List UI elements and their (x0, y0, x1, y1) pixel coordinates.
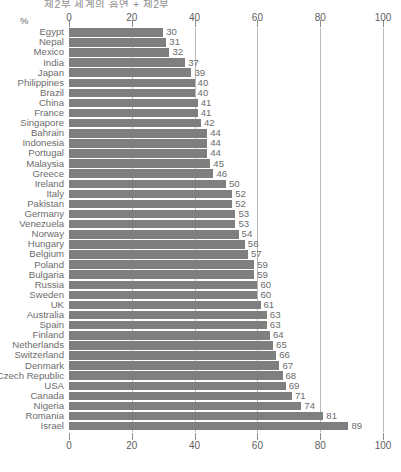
bar (69, 200, 232, 209)
bar (69, 48, 169, 57)
bar-row: Czech Republic68 (69, 371, 383, 380)
tick-label: 20 (126, 440, 137, 451)
bar (69, 371, 283, 380)
axis-tick-bottom (383, 433, 384, 440)
bar (69, 28, 163, 37)
bar-value-label: 32 (169, 48, 183, 58)
bar (69, 220, 235, 229)
bar (69, 129, 207, 138)
bar-row: Finland64 (69, 331, 383, 340)
bar (69, 210, 235, 219)
bar (69, 149, 207, 158)
bar (69, 79, 195, 88)
bar (69, 341, 273, 350)
bar (69, 38, 166, 47)
bar-chart: 제2부 세계의 흡연 + 제2부 % Egypt30Nepal31Mexico3… (0, 0, 401, 472)
bar-row: Bulgaria59 (69, 270, 383, 279)
bar-row: Australia63 (69, 311, 383, 320)
bar (69, 361, 279, 370)
axis-tick-bottom (69, 433, 70, 440)
bar-value-label: 74 (301, 401, 315, 411)
top-caption: 제2부 세계의 흡연 + 제2부 (44, 0, 170, 8)
bar-row: Belgium57 (69, 250, 383, 259)
bar (69, 422, 348, 431)
gridline (383, 28, 384, 432)
bar (69, 270, 254, 279)
bar (69, 169, 213, 178)
unit-label: % (20, 15, 28, 26)
bar-row: Egypt30 (69, 28, 383, 37)
bar (69, 250, 248, 259)
bar (69, 260, 254, 269)
bar-row: USA69 (69, 382, 383, 391)
bar-row: Norway54 (69, 230, 383, 239)
bar (69, 180, 226, 189)
tick-label: 80 (315, 12, 326, 23)
bar-row: Sweden60 (69, 291, 383, 300)
tick-label: 40 (189, 440, 200, 451)
bar (69, 311, 267, 320)
bar-row: Canada71 (69, 392, 383, 401)
bar (69, 331, 270, 340)
tick-label: 100 (375, 440, 392, 451)
bar-row: Spain63 (69, 321, 383, 330)
tick-label: 60 (252, 440, 263, 451)
tick-label: 0 (66, 440, 72, 451)
bar-row: Mexico32 (69, 48, 383, 57)
bar-row: Nigeria74 (69, 402, 383, 411)
bar-row: Nepal31 (69, 38, 383, 47)
bar (69, 402, 301, 411)
bar (69, 58, 185, 67)
bar-row: Malaysia45 (69, 159, 383, 168)
tick-label: 20 (126, 12, 137, 23)
bar (69, 190, 232, 199)
bar-row: Ireland50 (69, 180, 383, 189)
bar (69, 412, 323, 421)
bar-row: India37 (69, 58, 383, 67)
bar-row: Japan39 (69, 68, 383, 77)
bar-row: Russia60 (69, 281, 383, 290)
bar-value-label: 89 (348, 421, 362, 431)
axis-tick-bottom (320, 433, 321, 440)
bar (69, 99, 198, 108)
bar-row: China41 (69, 99, 383, 108)
bar-row: Pakistan52 (69, 200, 383, 209)
bar-row: Denmark67 (69, 361, 383, 370)
plot-area: Egypt30Nepal31Mexico32India37Japan39Phil… (69, 28, 383, 432)
bar-row: Poland59 (69, 260, 383, 269)
tick-label: 0 (66, 12, 72, 23)
bar (69, 291, 257, 300)
bar-row: Italy52 (69, 190, 383, 199)
bar-row: France41 (69, 109, 383, 118)
bar-row: Germany53 (69, 210, 383, 219)
bar (69, 139, 207, 148)
axis-tick-bottom (132, 433, 133, 440)
bar-row: Netherlands65 (69, 341, 383, 350)
bar-row: Israel89 (69, 422, 383, 431)
bar-value-label: 81 (323, 411, 337, 421)
bar-row: Venezuela53 (69, 220, 383, 229)
bar-row: Romania81 (69, 412, 383, 421)
tick-label: 60 (252, 12, 263, 23)
axis-tick-bottom (195, 433, 196, 440)
bar-row: Brazil40 (69, 89, 383, 98)
bar (69, 159, 210, 168)
bar-row: Greece46 (69, 169, 383, 178)
bar (69, 109, 198, 118)
axis-tick-bottom (257, 433, 258, 440)
bar-row: Singapore42 (69, 119, 383, 128)
bar (69, 351, 276, 360)
bar-row: Hungary56 (69, 240, 383, 249)
bar (69, 119, 201, 128)
bar-row: Switzerland66 (69, 351, 383, 360)
bar-value-label: 46 (213, 169, 227, 179)
bar-row: Bahrain44 (69, 129, 383, 138)
bar (69, 89, 195, 98)
tick-label: 100 (375, 12, 392, 23)
bar (69, 68, 191, 77)
bar (69, 392, 292, 401)
bar-row: UK61 (69, 301, 383, 310)
bar (69, 382, 286, 391)
bar-row: Philippines40 (69, 79, 383, 88)
bar (69, 281, 257, 290)
